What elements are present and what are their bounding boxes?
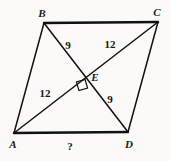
measure-label-ED: 9 [107,94,113,105]
measure-label-EC: 12 [105,39,116,50]
vertex-label-A: A [9,139,16,150]
vertex-label-B: B [38,8,45,19]
vertex-label-D: D [125,139,133,150]
side-CD [128,22,158,132]
diagonal-AC [14,22,158,133]
vertex-label-E: E [91,72,98,83]
geometry-figure: B C A D E 9 12 12 9 ? [0,0,171,161]
vertex-label-C: C [153,7,160,18]
measure-label-AE: 12 [40,88,51,99]
side-BC [44,22,158,23]
parallelogram-svg [0,0,171,161]
side-AD [14,132,128,133]
side-AB [14,23,44,133]
unknown-length-label: ? [67,141,73,152]
measure-label-BE: 9 [65,40,71,51]
